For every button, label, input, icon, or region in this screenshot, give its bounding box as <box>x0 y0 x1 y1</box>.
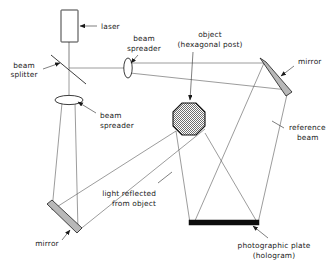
label-beam-splitter-line2: splitter <box>10 70 38 79</box>
leader-beam-spreader-bottom <box>78 102 96 113</box>
beam-splitter-plate <box>51 55 86 84</box>
beam-spreader-lens-vertical <box>124 58 132 78</box>
leader-beam-splitter <box>43 63 60 69</box>
leader-light-reflected <box>158 172 172 183</box>
label-reference-beam-line2: beam <box>297 133 319 142</box>
beam-reference-mirror-to-plate <box>194 63 288 223</box>
mirror-bottom-left <box>47 200 82 233</box>
laser-box <box>61 10 78 42</box>
leader-reference-beam <box>272 121 284 128</box>
hexagonal-post-object <box>173 103 205 135</box>
label-mirror-bottom-left: mirror <box>35 239 59 248</box>
leader-photographic-plate <box>253 226 268 238</box>
label-beam-splitter-line1: beam <box>13 61 35 70</box>
label-beam-spreader-bottom-line1: beam <box>100 111 122 120</box>
label-light-reflected-line2: from object <box>112 199 156 208</box>
label-laser: laser <box>101 22 121 31</box>
holography-diagram: laser beam splitter beam spreader beam s… <box>0 0 331 265</box>
label-reference-beam-line1: reference <box>289 123 326 132</box>
label-beam-spreader-bottom-line2: spreader <box>100 121 135 130</box>
beam-reference-arm-to-mirror <box>69 63 288 90</box>
label-light-reflected-line1: light reflected <box>102 189 156 198</box>
leader-object <box>190 52 193 100</box>
leader-beam-spreader-top <box>131 55 138 63</box>
beam-spreader-lens-horizontal <box>55 95 83 104</box>
label-beam-spreader-top-line1: beam <box>133 34 155 43</box>
label-object-line2: (hexagonal post) <box>178 40 243 49</box>
label-photographic-plate-line1: photographic plate <box>238 241 311 250</box>
mirror-top-right <box>260 58 292 96</box>
label-object-line1: object <box>198 30 222 39</box>
label-beam-spreader-top-line2: spreader <box>127 44 162 53</box>
beam-mirror-to-object <box>52 129 205 231</box>
leader-mirror-top-right <box>281 66 294 76</box>
label-mirror-top-right: mirror <box>298 57 322 66</box>
holography-diagram-canvas: laser beam splitter beam spreader beam s… <box>0 0 331 265</box>
beam-object-to-plate <box>176 131 257 223</box>
label-photographic-plate-line2: (hologram) <box>253 251 296 260</box>
leader-mirror-bottom-left <box>62 230 70 240</box>
photographic-plate <box>189 220 259 225</box>
